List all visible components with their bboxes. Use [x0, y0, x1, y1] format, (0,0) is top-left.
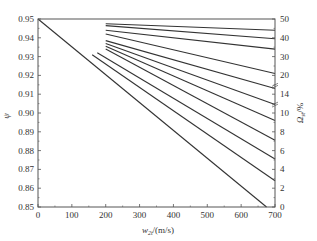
x-axis-title: w2t/(m/s): [142, 225, 174, 236]
y2-tick-label: 10: [280, 108, 290, 118]
y2-tick-label: 0: [280, 202, 285, 212]
y-tick-label: 0.92: [18, 70, 34, 80]
y-tick-label: 0.95: [18, 14, 34, 24]
plot-frame: [38, 19, 275, 207]
x-tick-label: 500: [201, 210, 215, 220]
y2-axis-title: Ωst/%: [295, 102, 306, 123]
series-line: [106, 24, 275, 31]
y-tick-label: 0.87: [18, 164, 34, 174]
y-axis-title: ψ: [1, 113, 11, 119]
series-line: [97, 53, 275, 159]
x-axis: 0100200300400500600700: [36, 204, 283, 220]
y-tick-label: 0.89: [18, 127, 34, 137]
series-line: [106, 46, 275, 120]
y-tick-label: 0.88: [18, 146, 34, 156]
y-tick-label: 0.86: [18, 183, 34, 193]
y2-tick-label: 14: [280, 89, 290, 99]
y-tick-label: 0.93: [18, 52, 34, 62]
x-tick-label: 0: [36, 210, 41, 220]
x-tick-label: 200: [99, 210, 113, 220]
y2-tick-label: 30: [280, 52, 290, 62]
y-tick-label: 0.90: [18, 108, 34, 118]
y2-tick-label: 6: [280, 146, 285, 156]
y2-tick-label: 20: [280, 70, 290, 80]
chart: 0100200300400500600700 0.850.860.870.880…: [0, 0, 317, 241]
series-line: [106, 26, 275, 39]
y-tick-label: 0.85: [18, 202, 34, 212]
x-tick-label: 400: [167, 210, 181, 220]
y2-tick-label: 40: [280, 33, 290, 43]
y-tick-label: 0.94: [18, 33, 34, 43]
series-line: [92, 55, 275, 181]
x-tick-label: 300: [133, 210, 147, 220]
series-line: [106, 49, 275, 140]
y2-tick-label: 50: [280, 14, 290, 24]
y-tick-label: 0.91: [18, 89, 34, 99]
y2-tick-label: 2: [280, 183, 285, 193]
y2-tick-label: 8: [280, 127, 285, 137]
x-tick-label: 100: [65, 210, 79, 220]
y2-tick-label: 4: [280, 164, 285, 174]
x-tick-label: 600: [234, 210, 248, 220]
series-line: [38, 19, 267, 207]
plot-lines: [38, 19, 275, 207]
